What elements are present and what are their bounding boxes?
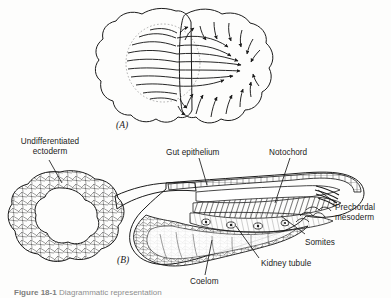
panel-a-right-lobe	[179, 9, 272, 123]
panel-b-ectoderm-ring	[8, 171, 124, 262]
panel-mark-b: (B)	[117, 255, 129, 265]
panel-a-left-lobe	[95, 8, 192, 122]
panel-a-artwork	[95, 8, 272, 123]
panel-mark-a: (A)	[116, 120, 128, 130]
label-undifferentiated-ectoderm: Undifferentiated ectoderm	[6, 137, 94, 156]
panel-a-arrows-upper	[185, 22, 260, 62]
embryology-figure: Undifferentiated ectoderm Gut epithelium…	[0, 0, 391, 298]
panel-a-streaming-lines	[177, 36, 241, 86]
label-notochord: Notochord	[269, 148, 307, 158]
label-prechordal-mesoderm: Prechordal mesoderm	[335, 203, 375, 222]
label-prechordal-mesoderm-line1: Prechordal	[335, 203, 375, 213]
label-undifferentiated-ectoderm-line2: ectoderm	[6, 147, 94, 157]
figure-caption: Figure 18-1 Diagrammatic representation	[14, 288, 162, 297]
label-prechordal-mesoderm-line2: mesoderm	[335, 213, 375, 223]
label-somites: Somites	[305, 238, 335, 248]
figure-caption-prefix: Figure 18-1	[14, 288, 57, 297]
leader-gut-epithelium	[199, 158, 207, 185]
figure-caption-text: Diagrammatic representation	[59, 288, 162, 297]
label-undifferentiated-ectoderm-line1: Undifferentiated	[6, 137, 94, 147]
panel-b-artwork	[8, 158, 364, 275]
panel-a-flow-lines	[127, 29, 177, 101]
label-coelom: Coelom	[190, 277, 219, 287]
label-gut-epithelium: Gut epithelium	[166, 148, 220, 158]
panel-a-dashed-guide-circle	[126, 24, 200, 102]
label-kidney-tubule: Kidney tubule	[261, 259, 311, 269]
